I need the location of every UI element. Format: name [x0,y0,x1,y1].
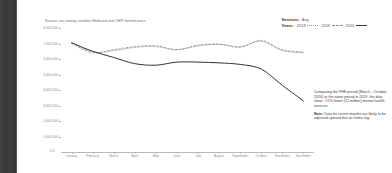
y-axis-tick: 3,000,000 [43,104,58,108]
legend-item-2018[interactable]: 2018 [297,23,318,28]
annotation-note-prefix: Note: [314,112,323,116]
x-axis-tick: July [195,154,201,158]
y-axis-tick: 6,000,000 [43,57,58,61]
left-sidebar-rail [0,0,17,173]
x-axis-origin-label: 0.0 [50,149,55,153]
y-axis-tick: 1,000,000 [43,135,58,139]
chart-panel: Service use among enrollee Medicaid and … [17,0,387,173]
legend-services-value[interactable]: Any [302,17,309,22]
series-path-2019 [72,40,304,53]
annotation-paragraph: Comparing the PHE period (March – Octobe… [314,90,392,108]
legend-label-2020: 2020 [346,23,355,28]
x-axis-tick: December [296,154,311,158]
legend-swatch-solid-icon [356,24,367,27]
x-axis-tick: June [173,154,180,158]
y-axis: 8,000,0007,000,0006,000,0005,000,0004,00… [17,28,61,152]
y-axis-tick: 5,000,000 [43,73,58,77]
chart-title: Service use among enrollee Medicaid and … [45,19,146,24]
x-axis-line [61,152,314,153]
x-axis-tick: October [256,154,267,158]
legend-item-2020[interactable]: 2020 [346,23,367,28]
annotation-block: Comparing the PHE period (March – Octobe… [314,90,392,121]
y-axis-tick: 4,000,000 [43,88,58,92]
chart-legend: Services: Any Years: 2018 2019 2020 [281,16,367,28]
y-axis-tick: 8,000,000 [43,26,58,30]
x-axis-tick: March [109,154,118,158]
x-axis-tick: April [132,154,138,158]
legend-years-label: Years: [281,23,293,28]
annotation-note-text: Data for recent months are likely to be … [314,112,386,121]
plot-area [61,28,314,152]
x-axis-tick: November [275,154,290,158]
legend-label-2019: 2019 [321,23,330,28]
legend-item-2019[interactable]: 2019 [321,23,342,28]
x-axis-tick: August [214,154,224,158]
x-axis-tick: September [232,154,248,158]
x-axis-tick: February [86,154,99,158]
y-axis-tick: 7,000,000 [43,42,58,46]
x-axis-labels: JanuaryFebruaryMarchAprilMayJuneJulyAugu… [61,154,314,166]
series-lines [61,28,314,152]
legend-services-label: Services: [281,17,299,22]
x-axis-tick: May [153,154,159,158]
legend-swatch-dotted-icon [307,24,318,27]
legend-label-2018: 2018 [297,23,306,28]
y-axis-tick: 2,000,000 [43,119,58,123]
legend-swatch-dashed-icon [332,24,343,27]
annotation-note: Note: Data for recent months are likely … [314,112,392,121]
x-axis-tick: January [66,154,77,158]
